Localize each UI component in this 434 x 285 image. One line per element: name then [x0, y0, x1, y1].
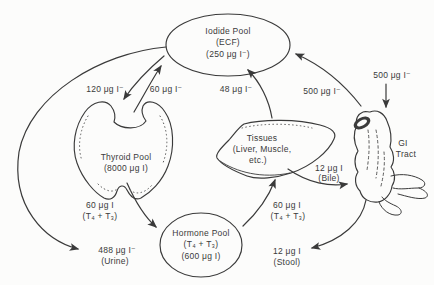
node-thyroid-pool: Thyroid Pool (8000 μg I): [74, 102, 172, 199]
iodide-pool-label-line1: Iodide Pool: [205, 26, 250, 36]
flux-tissue-uptake-line1: 60 μg I: [273, 200, 301, 210]
diagram-canvas: Iodide Pool (ECF) (250 μg I⁻) Thyroid Po…: [0, 0, 434, 285]
flux-thyroid-return-label: 60 μg I⁻: [150, 84, 183, 94]
flux-tissue-return-label: 48 μg I⁻: [220, 84, 253, 94]
thyroid-pool-label-line1: Thyroid Pool: [101, 152, 152, 162]
node-iodide-pool: Iodide Pool (ECF) (250 μg I⁻): [166, 14, 290, 76]
arrow-gi-absorption: [296, 54, 361, 106]
thyroid-pool-label-line2: (8000 μg I): [104, 163, 148, 173]
iodide-pool-label-line3: (250 μg I⁻): [206, 49, 250, 59]
arrow-stool: [312, 200, 366, 248]
thyroid-gland-drawing: [74, 102, 172, 199]
gi-tract-label-line2: Tract: [396, 149, 417, 159]
gi-tract-label-line1: GI: [398, 138, 407, 148]
flux-stool-line2: (Stool): [274, 257, 301, 267]
hormone-pool-label-line3: (600 μg I): [181, 251, 220, 261]
flux-urine-line1: 488 μg I⁻: [98, 245, 136, 255]
flux-bile-line1: 12 μg I: [315, 163, 343, 173]
arrow-tissue-return: [248, 70, 272, 118]
hormone-pool-label-line2: (T₄ + T₃): [184, 239, 219, 249]
iodine-metabolism-diagram: Iodide Pool (ECF) (250 μg I⁻) Thyroid Po…: [0, 0, 434, 285]
tissues-label-line2: (Liver, Muscle,: [233, 144, 292, 154]
iodide-pool-label-line2: (ECF): [216, 37, 240, 47]
node-hormone-pool: Hormone Pool (T₄ + T₃) (600 μg I): [160, 213, 242, 277]
flux-urine-line2: (Urine): [101, 256, 129, 266]
flux-thyroid-secretion-line1: 60 μg I: [86, 200, 114, 210]
flux-stool-line1: 12 μg I: [273, 246, 301, 256]
hormone-pool-label-line1: Hormone Pool: [172, 228, 229, 238]
flux-thyroid-secretion-line2: (T₄ + T₃): [83, 211, 118, 221]
flux-dietary-intake-label: 500 μg I⁻: [373, 70, 411, 80]
node-gi-tract: GI Tract: [351, 111, 427, 215]
flux-gi-absorption-label: 500 μg I⁻: [303, 86, 341, 96]
tissues-label-line1: Tissues: [247, 133, 278, 143]
flux-bile-line2: (Bile): [318, 173, 339, 183]
flux-thyroid-uptake-label: 120 μg I⁻: [86, 84, 124, 94]
tissues-label-line3: etc.): [249, 155, 267, 165]
flux-tissue-uptake-line2: (T₄ + T₃): [271, 211, 306, 221]
